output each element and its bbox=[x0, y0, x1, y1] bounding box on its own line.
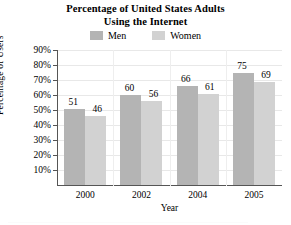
legend-entry-women: Women bbox=[152, 30, 201, 41]
y-axis-tick bbox=[53, 140, 57, 141]
x-axis-tick-label: 2000 bbox=[55, 190, 115, 201]
y-axis-tick bbox=[53, 155, 57, 156]
bar-men-2005: 75 bbox=[233, 73, 254, 186]
legend-entry-men: Men bbox=[90, 30, 126, 41]
y-axis-tick-label: 20% bbox=[34, 150, 51, 160]
legend-label-women: Women bbox=[170, 30, 201, 41]
x-axis-tick-label: 2002 bbox=[111, 190, 171, 201]
category-separator bbox=[113, 50, 114, 186]
plot-area: 90%80%70%60%50%40%30%20%10% 514660566661… bbox=[57, 50, 282, 186]
y-axis-tick bbox=[53, 80, 57, 81]
y-axis-tick-label: 10% bbox=[34, 165, 51, 175]
bar-value-label: 56 bbox=[141, 89, 165, 100]
bar-value-label: 46 bbox=[85, 104, 109, 115]
y-axis-tick-label: 80% bbox=[34, 60, 51, 70]
category-separator bbox=[170, 50, 171, 186]
men-swatch-icon bbox=[90, 31, 103, 40]
y-axis-line bbox=[57, 50, 58, 186]
bar-men-2002: 60 bbox=[120, 95, 141, 185]
bar-group: 5146 bbox=[64, 50, 106, 185]
bar-men-2000: 51 bbox=[64, 109, 85, 186]
y-axis-tick bbox=[53, 125, 57, 126]
y-axis-tick bbox=[53, 50, 57, 51]
x-axis-tick-label: 2005 bbox=[224, 190, 284, 201]
women-swatch-icon bbox=[152, 31, 165, 40]
bar-value-label: 51 bbox=[61, 97, 85, 108]
y-axis-tick bbox=[53, 170, 57, 171]
bar-value-label: 60 bbox=[117, 83, 141, 94]
y-axis-tick bbox=[53, 65, 57, 66]
bar-chart-figure: Percentage of United States Adults Using… bbox=[0, 0, 291, 225]
bar-value-label: 61 bbox=[198, 82, 222, 93]
chart-title-line-2: Using the Internet bbox=[0, 16, 291, 29]
chart-title: Percentage of United States Adults Using… bbox=[0, 3, 291, 28]
bar-value-label: 75 bbox=[230, 61, 254, 72]
y-axis-tick-label: 50% bbox=[34, 105, 51, 115]
bar-women-2005: 69 bbox=[254, 82, 275, 186]
y-axis-tick-label: 90% bbox=[34, 45, 51, 55]
bar-value-label: 66 bbox=[174, 74, 198, 85]
y-axis-tick-label: 60% bbox=[34, 90, 51, 100]
y-axis-tick-label: 70% bbox=[34, 75, 51, 85]
bar-value-label: 69 bbox=[254, 70, 278, 81]
y-axis-tick-label: 30% bbox=[34, 135, 51, 145]
bar-men-2004: 66 bbox=[177, 86, 198, 185]
page-edge-artifact bbox=[8, 222, 248, 223]
bar-women-2004: 61 bbox=[198, 94, 219, 186]
chart-legend: Men Women bbox=[0, 30, 291, 41]
chart-title-line-1: Percentage of United States Adults bbox=[0, 3, 291, 16]
y-axis-tick bbox=[53, 95, 57, 96]
category-separator bbox=[226, 50, 227, 186]
legend-label-men: Men bbox=[108, 30, 126, 41]
y-axis-tick bbox=[53, 110, 57, 111]
x-axis-title: Year bbox=[57, 203, 282, 213]
y-axis-title: Percentage of Users bbox=[0, 35, 5, 115]
bar-group: 6661 bbox=[177, 50, 219, 185]
y-axis-tick-label: 40% bbox=[34, 120, 51, 130]
bar-group: 6056 bbox=[120, 50, 162, 185]
bar-women-2002: 56 bbox=[141, 101, 162, 185]
x-axis-tick-label: 2004 bbox=[168, 190, 228, 201]
bar-group: 7569 bbox=[233, 50, 275, 185]
bar-women-2000: 46 bbox=[85, 116, 106, 185]
